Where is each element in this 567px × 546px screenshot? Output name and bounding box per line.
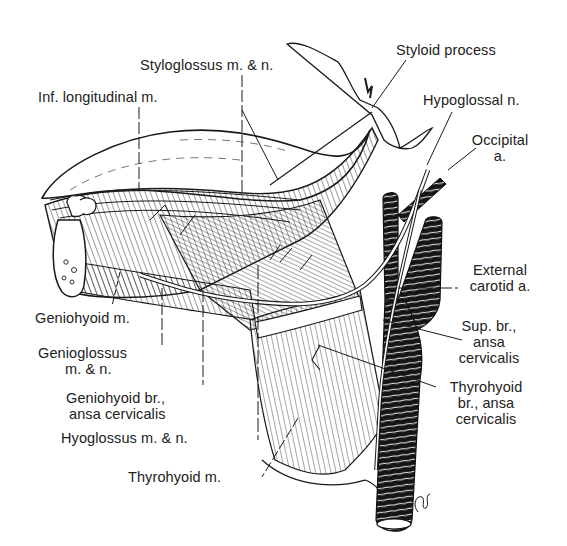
label-inf-longitudinal: Inf. longitudinal m.: [38, 89, 158, 105]
label-genioglossus-line2: m. & n.: [38, 361, 127, 377]
label-geniohyoid-br-line2: ansa cervicalis: [66, 406, 166, 422]
label-external-carotid: External carotid a.: [455, 262, 545, 294]
label-sup-br-line3: cervicalis: [446, 350, 532, 366]
label-sup-br-line2: ansa: [446, 334, 532, 350]
label-occipital-artery: Occipital a.: [460, 132, 540, 164]
label-genioglossus-line1: Genioglossus: [38, 345, 127, 361]
label-geniohyoid-muscle: Geniohyoid m.: [35, 310, 130, 326]
label-thyrohyoid-br-line3: cervicalis: [436, 411, 536, 427]
label-geniohyoid-br-line1: Geniohyoid br.,: [66, 390, 166, 406]
label-external-carotid-line1: External: [455, 262, 545, 278]
label-hypoglossal-nerve: Hypoglossal n.: [423, 92, 520, 108]
label-thyrohyoid-br-line2: br., ansa: [436, 395, 536, 411]
label-hyoglossus: Hyoglossus m. & n.: [61, 430, 188, 446]
label-thyrohyoid-muscle: Thyrohyoid m.: [128, 469, 221, 485]
label-styloglossus: Styloglossus m. & n.: [140, 57, 273, 73]
label-sup-br-line1: Sup. br.,: [446, 318, 532, 334]
label-genioglossus: Genioglossus m. & n.: [38, 345, 127, 377]
artist-signature: [415, 494, 430, 512]
label-thyrohyoid-br-ansa: Thyrohyoid br., ansa cervicalis: [436, 379, 536, 427]
label-geniohyoid-br-ansa: Geniohyoid br., ansa cervicalis: [66, 390, 166, 422]
anatomical-illustration: Styloid process Styloglossus m. & n. Inf…: [0, 0, 567, 546]
label-styloid-process: Styloid process: [396, 42, 496, 58]
label-thyrohyoid-br-line1: Thyrohyoid: [436, 379, 536, 395]
label-external-carotid-line2: carotid a.: [455, 278, 545, 294]
label-occipital-line2: a.: [460, 148, 540, 164]
label-occipital-line1: Occipital: [460, 132, 540, 148]
label-sup-br-ansa: Sup. br., ansa cervicalis: [446, 318, 532, 366]
thyrohyoid-muscle: [250, 290, 395, 515]
